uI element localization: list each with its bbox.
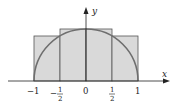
tick-label-neg-one: −1 <box>27 86 40 96</box>
tick-half-num: 1 <box>110 86 114 94</box>
riemann-sum-chart: x y −1 − 1 2 0 1 2 1 <box>0 0 176 106</box>
x-axis-arrow-icon <box>163 79 170 84</box>
tick-neg-half-den: 2 <box>58 95 62 103</box>
tick-label-neg-half: − 1 2 <box>50 86 63 103</box>
tick-label-one: 1 <box>135 86 140 96</box>
tick-neg-half-sign: − <box>50 88 57 98</box>
tick-label-half: 1 2 <box>109 86 115 103</box>
tick-half-den: 2 <box>110 95 114 103</box>
y-axis-label: y <box>91 6 98 16</box>
tick-neg-half-num: 1 <box>58 86 62 94</box>
y-axis-arrow-icon <box>84 7 89 14</box>
rectangle-4 <box>112 36 138 81</box>
x-axis-label: x <box>162 69 167 79</box>
tick-label-zero: 0 <box>83 86 88 96</box>
rectangle-2 <box>60 29 86 81</box>
rectangle-3 <box>86 29 112 81</box>
rectangle-1 <box>34 36 60 81</box>
